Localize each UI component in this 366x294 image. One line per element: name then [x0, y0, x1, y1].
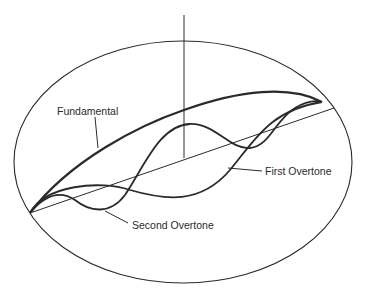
- label-second-overtone: Second Overtone: [132, 220, 214, 231]
- boundary-ellipse: [14, 41, 352, 283]
- first-overtone-leader: [228, 168, 262, 171]
- second-overtone-leader: [105, 211, 128, 223]
- diagram-canvas: Fundamental First Overtone Second Overto…: [0, 0, 366, 294]
- label-first-overtone: First Overtone: [265, 166, 332, 177]
- first-overtone-curve: [30, 102, 322, 213]
- label-fundamental: Fundamental: [57, 106, 118, 117]
- wave-diagram: [0, 0, 366, 294]
- fundamental-leader: [95, 117, 98, 148]
